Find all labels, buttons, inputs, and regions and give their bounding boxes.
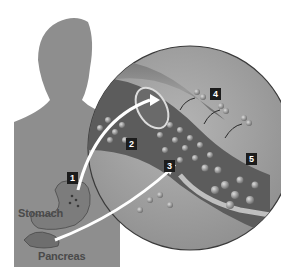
diagram-canvas (0, 0, 281, 267)
step-2-badge: 2 (126, 138, 137, 150)
step-5-badge: 5 (246, 153, 257, 165)
stomach-label: Stomach (18, 207, 63, 219)
step-4-badge: 4 (210, 88, 221, 100)
step-3-badge: 3 (164, 160, 175, 172)
magnified-view (88, 46, 281, 250)
pancreas-label: Pancreas (38, 250, 85, 262)
step-1-badge: 1 (67, 172, 78, 184)
